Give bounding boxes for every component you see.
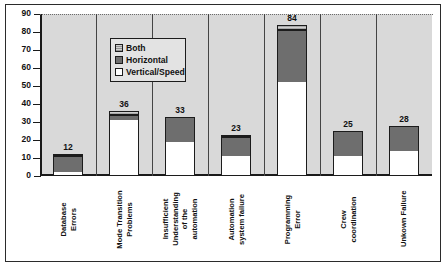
y-axis-tick-label-wrap: 20 xyxy=(0,135,31,145)
y-axis-tick xyxy=(34,176,41,177)
legend-item: Vertical/Speed xyxy=(115,66,180,78)
x-axis-category-label: Insufficient Understanding of the automa… xyxy=(161,182,199,256)
y-axis-tick-label-wrap: 10 xyxy=(0,153,31,163)
bar-top-edge xyxy=(277,25,307,26)
bar-value-label: 84 xyxy=(272,14,312,23)
bar-segment-horizontal xyxy=(389,126,419,151)
legend-swatch-vertical xyxy=(115,68,123,76)
y-axis-tick-label-wrap: 70 xyxy=(0,45,31,55)
bar-column xyxy=(53,154,83,176)
y-axis-tick-label: 70 xyxy=(5,45,31,54)
chart-legend: BothHorizontalVertical/Speed xyxy=(110,38,186,82)
legend-item: Horizontal xyxy=(115,54,180,66)
y-axis-tick-label: 40 xyxy=(5,99,31,108)
bar-value-label: 12 xyxy=(48,143,88,152)
y-axis-tick-label: 10 xyxy=(5,153,31,162)
category-separator xyxy=(320,14,321,176)
y-axis-tick-label-wrap: 60 xyxy=(0,63,31,73)
legend-swatch-horizontal xyxy=(115,56,123,64)
y-axis-tick-label-wrap: 50 xyxy=(0,81,31,91)
bar-segment-horizontal xyxy=(333,131,363,156)
bar-top-edge xyxy=(389,126,419,127)
category-separator xyxy=(208,14,209,176)
legend-label: Vertical/Speed xyxy=(126,68,185,77)
y-axis-tick-label: 30 xyxy=(5,117,31,126)
bar-value-label: 36 xyxy=(104,100,144,109)
bar-segment-vertical-speed xyxy=(53,172,83,176)
x-axis-category-label: Crew coordination xyxy=(339,182,358,256)
bar-segment-horizontal xyxy=(53,156,83,172)
x-axis-category-label: Mode Transition Problems xyxy=(115,182,134,256)
y-axis-tick-label-wrap: 90 xyxy=(0,9,31,19)
legend-swatch-both xyxy=(115,44,123,52)
y-axis-tick-label: 0 xyxy=(5,171,31,180)
y-axis-tick-label: 50 xyxy=(5,81,31,90)
y-axis-tick-label: 60 xyxy=(5,63,31,72)
y-axis-tick-label-wrap: 80 xyxy=(0,27,31,37)
bar-top-edge xyxy=(333,131,363,132)
bar-column xyxy=(333,131,363,176)
y-axis-tick-label: 20 xyxy=(5,135,31,144)
y-axis-tick-label: 80 xyxy=(5,27,31,36)
bar-top-edge xyxy=(109,111,139,112)
x-axis-category-label: Automation system failure xyxy=(227,182,246,256)
bar-value-label: 33 xyxy=(160,106,200,115)
category-separator xyxy=(96,14,97,176)
bar-column xyxy=(165,117,195,176)
bar-segment-vertical-speed xyxy=(165,142,195,176)
bar-column xyxy=(109,111,139,176)
y-axis-tick-label-wrap: 30 xyxy=(0,117,31,127)
y-axis-tick-label-wrap: 0 xyxy=(0,171,31,181)
x-axis-category-label: Unkown Failure xyxy=(399,182,409,256)
bar-segment-vertical-speed xyxy=(277,82,307,176)
x-axis-category-label: Database Errors xyxy=(59,182,78,256)
bar-top-edge xyxy=(53,154,83,155)
bar-column xyxy=(277,25,307,176)
legend-item: Both xyxy=(115,42,180,54)
bar-value-label: 23 xyxy=(216,124,256,133)
category-separator xyxy=(376,14,377,176)
bar-column xyxy=(389,126,419,176)
bar-segment-horizontal xyxy=(221,137,251,157)
gridline-top xyxy=(40,14,433,15)
y-axis-tick-label-wrap: 40 xyxy=(0,99,31,109)
x-axis-category-label: Programming Error xyxy=(283,182,302,256)
y-axis-tick-label: 90 xyxy=(5,9,31,18)
bar-segment-vertical-speed xyxy=(109,120,139,176)
bar-value-label: 28 xyxy=(384,115,424,124)
bar-segment-horizontal xyxy=(165,117,195,142)
bar-value-label: 25 xyxy=(328,120,368,129)
legend-label: Horizontal xyxy=(126,56,168,65)
bar-segment-vertical-speed xyxy=(333,156,363,176)
bar-segment-vertical-speed xyxy=(221,156,251,176)
bar-segment-horizontal xyxy=(277,30,307,82)
bar-top-edge xyxy=(221,135,251,136)
stacked-bar-chart: 0102030405060708090 12363323842528 Datab… xyxy=(0,0,447,268)
bar-top-edge xyxy=(165,117,195,118)
legend-label: Both xyxy=(126,44,146,53)
bar-column xyxy=(221,135,251,176)
category-separator xyxy=(264,14,265,176)
bar-segment-vertical-speed xyxy=(389,151,419,176)
